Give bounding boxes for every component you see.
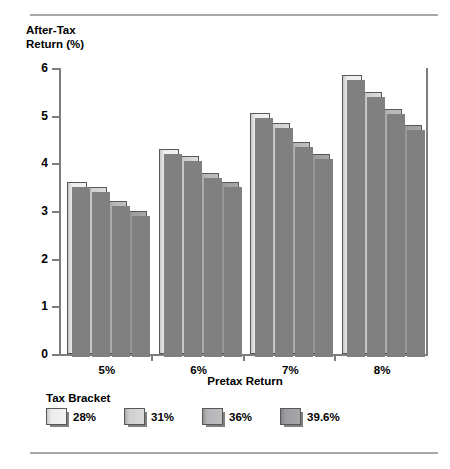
y-axis-title: After-Tax Return (%) (26, 24, 146, 51)
bar[interactable] (159, 149, 179, 354)
bar-shadow (204, 178, 222, 357)
bar-shadow (367, 97, 385, 357)
bar[interactable] (250, 113, 270, 354)
bar[interactable] (402, 125, 422, 354)
y-axis-tick (52, 163, 59, 165)
bar[interactable] (219, 182, 239, 354)
bar[interactable] (290, 142, 310, 354)
legend-swatch-shadow (206, 412, 225, 427)
bar[interactable] (199, 173, 219, 354)
plot-area: 0123456 5%6%7%8% (59, 68, 428, 356)
bar[interactable] (362, 92, 382, 354)
legend-item[interactable]: 31% (124, 408, 174, 425)
x-axis-tick (151, 356, 153, 361)
y-axis-tick (52, 354, 59, 356)
bar-group (67, 68, 147, 354)
bar-shadow (255, 118, 273, 357)
x-axis-title: Pretax Return (60, 375, 430, 387)
bar-shadow (184, 161, 202, 357)
bar-shadow (295, 147, 313, 357)
legend-item[interactable]: 36% (202, 408, 252, 425)
x-axis-tick (243, 356, 245, 361)
plot-right-border (426, 68, 428, 356)
bar-shadow (315, 159, 333, 357)
legend-label: 36% (229, 411, 252, 423)
legend-swatch-icon (280, 408, 301, 425)
bar-shadow (275, 128, 293, 357)
bar-shadow (132, 216, 150, 357)
bar-shadow (347, 80, 365, 357)
y-axis-tick (52, 306, 59, 308)
legend-title: Tax Bracket (46, 392, 368, 404)
legend-swatch-shadow (50, 412, 69, 427)
y-axis-tick-label: 4 (41, 158, 48, 168)
bar-shadow (387, 114, 405, 357)
legend-swatch-shadow (128, 412, 147, 427)
legend-label: 39.6% (307, 411, 340, 423)
bar[interactable] (270, 123, 290, 354)
legend-label: 31% (151, 411, 174, 423)
bar-shadow (407, 130, 425, 357)
bar-shadow (112, 206, 130, 357)
legend-item[interactable]: 39.6% (280, 408, 340, 425)
bar[interactable] (179, 156, 199, 354)
legend-item[interactable]: 28% (46, 408, 96, 425)
legend-items: 28%31%36%39.6% (46, 408, 368, 425)
y-axis-line (59, 68, 61, 356)
legend-swatch-icon (46, 408, 67, 425)
y-axis-tick-label: 6 (41, 63, 48, 73)
bar-shadow (164, 154, 182, 357)
legend: Tax Bracket 28%31%36%39.6% (46, 392, 368, 425)
y-axis-tick-label: 0 (41, 349, 48, 359)
y-axis-tick-label: 2 (41, 254, 48, 264)
bar[interactable] (342, 75, 362, 354)
legend-label: 28% (73, 411, 96, 423)
y-axis-tick (52, 68, 59, 70)
bar-shadow (224, 187, 242, 357)
bar-group (342, 68, 422, 354)
legend-swatch-icon (202, 408, 223, 425)
bar[interactable] (107, 201, 127, 354)
y-axis-tick-label: 5 (41, 111, 48, 121)
y-axis-tick (52, 211, 59, 213)
bar[interactable] (127, 211, 147, 354)
top-divider (30, 14, 438, 16)
bar-group (250, 68, 330, 354)
bar-shadow (72, 187, 90, 357)
bar[interactable] (382, 109, 402, 354)
y-axis-tick (52, 116, 59, 118)
legend-swatch-icon (124, 408, 145, 425)
bottom-divider (30, 452, 438, 454)
y-axis-tick (52, 259, 59, 261)
x-axis-tick (334, 356, 336, 361)
bar-shadow (92, 192, 110, 357)
chart-page: After-Tax Return (%) 0123456 5%6%7%8% Pr… (0, 0, 450, 469)
y-axis-tick-label: 1 (41, 301, 48, 311)
bar[interactable] (87, 187, 107, 354)
bar[interactable] (67, 182, 87, 354)
bar[interactable] (310, 154, 330, 354)
y-axis-tick-label: 3 (41, 206, 48, 216)
legend-swatch-shadow (284, 412, 303, 427)
bar-group (159, 68, 239, 354)
